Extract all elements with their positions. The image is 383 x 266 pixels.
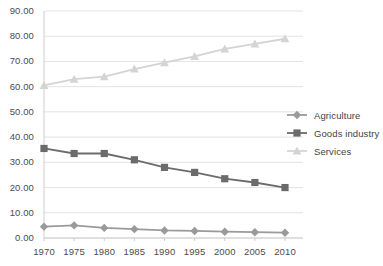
line-chart: 0.0010.0020.0030.0040.0050.0060.0070.008… <box>0 0 383 266</box>
legend-item[interactable]: Services <box>286 142 382 160</box>
chart-legend: AgricultureGoods industryServices <box>286 106 382 160</box>
x-tick-label: 1970 <box>33 247 55 257</box>
x-tick-label: 1975 <box>63 247 85 257</box>
x-tick-label: 1985 <box>124 247 146 257</box>
legend-marker-icon <box>286 108 308 122</box>
x-tick-label: 2010 <box>274 247 296 257</box>
x-tick-label: 1980 <box>93 247 115 257</box>
legend-marker-icon <box>286 126 308 140</box>
legend-marker-icon <box>286 144 308 158</box>
legend-item[interactable]: Agriculture <box>286 106 382 124</box>
x-tick-label: 2000 <box>214 247 236 257</box>
x-tick-label: 1995 <box>184 247 206 257</box>
legend-label: Goods industry <box>314 128 379 139</box>
legend-label: Agriculture <box>314 110 361 121</box>
legend-item[interactable]: Goods industry <box>286 124 382 142</box>
x-tick-label: 2005 <box>244 247 266 257</box>
x-tick-label: 1990 <box>154 247 176 257</box>
legend-label: Services <box>314 146 351 157</box>
